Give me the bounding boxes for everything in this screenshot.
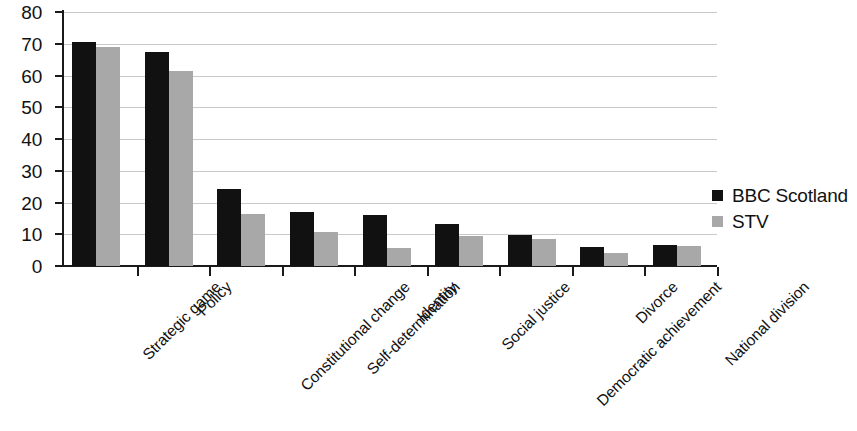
bar-group — [363, 12, 411, 266]
bar-chart: 01020304050607080 Strategic gamePolicyCo… — [0, 0, 857, 431]
bar-stv — [241, 214, 265, 266]
legend-item: BBC Scotland — [712, 182, 857, 208]
y-axis: 01020304050607080 — [0, 0, 52, 280]
legend-item: STV — [712, 208, 857, 234]
x-tick-mark — [717, 267, 719, 276]
bar-group — [145, 12, 193, 266]
y-tick-mark — [55, 138, 62, 140]
x-tick-mark — [427, 267, 429, 276]
x-tick-mark — [572, 267, 574, 276]
bar-stv — [532, 239, 556, 266]
bar-group — [435, 12, 483, 266]
chart-legend: BBC ScotlandSTV — [712, 182, 857, 234]
y-tick-label: 40 — [21, 130, 42, 149]
y-tick-mark — [55, 233, 62, 235]
x-tick-mark — [499, 267, 501, 276]
bar-bbc-scotland — [508, 235, 532, 266]
bar-stv — [677, 246, 701, 266]
y-tick-label: 70 — [21, 34, 42, 53]
bar-group — [217, 12, 265, 266]
bar-stv — [604, 253, 628, 266]
bar-group — [290, 12, 338, 266]
bar-bbc-scotland — [653, 245, 677, 266]
y-tick-label: 50 — [21, 98, 42, 117]
y-tick-mark — [55, 75, 62, 77]
bar-stv — [96, 47, 120, 266]
bar-bbc-scotland — [580, 247, 604, 266]
bar-group — [653, 12, 701, 266]
legend-label: BBC Scotland — [732, 186, 848, 205]
bars-layer — [64, 12, 717, 266]
bar-bbc-scotland — [145, 52, 169, 266]
bar-group — [508, 12, 556, 266]
x-axis-label: National division — [722, 278, 813, 369]
y-tick-mark — [55, 202, 62, 204]
bar-stv — [169, 71, 193, 266]
x-tick-mark — [644, 267, 646, 276]
y-tick-label: 20 — [21, 193, 42, 212]
legend-label: STV — [732, 212, 768, 231]
y-tick-label: 30 — [21, 161, 42, 180]
legend-swatch-icon — [712, 216, 723, 227]
x-tick-mark — [137, 267, 139, 276]
x-tick-mark — [282, 267, 284, 276]
bar-group — [580, 12, 628, 266]
plot-area — [64, 12, 717, 266]
y-tick-mark — [55, 170, 62, 172]
bar-stv — [459, 236, 483, 266]
bar-stv — [387, 248, 411, 266]
bar-bbc-scotland — [72, 42, 96, 266]
bar-bbc-scotland — [290, 212, 314, 266]
y-tick-label: 80 — [21, 3, 42, 22]
y-tick-mark — [55, 11, 62, 13]
y-tick-mark — [55, 43, 62, 45]
bar-bbc-scotland — [217, 189, 241, 266]
x-axis-labels: Strategic gamePolicyConstitutional chang… — [0, 272, 760, 431]
bar-bbc-scotland — [363, 215, 387, 266]
bar-bbc-scotland — [435, 224, 459, 266]
y-tick-mark — [55, 106, 62, 108]
x-tick-mark — [354, 267, 356, 276]
bar-group — [72, 12, 120, 266]
bar-stv — [314, 232, 338, 266]
x-tick-mark — [209, 267, 211, 276]
y-tick-label: 10 — [21, 225, 42, 244]
x-axis-label: Identity — [414, 278, 462, 326]
y-tick-label: 60 — [21, 66, 42, 85]
legend-swatch-icon — [712, 190, 723, 201]
x-axis-label: Social justice — [498, 278, 574, 354]
y-tick-mark — [55, 265, 62, 267]
